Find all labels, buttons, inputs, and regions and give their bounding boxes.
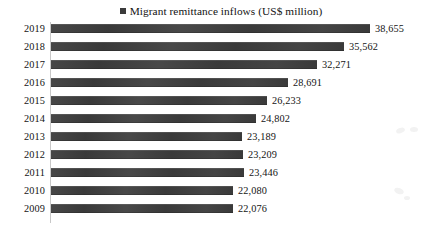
- bar-2018[interactable]: [51, 42, 344, 51]
- value-label-2016: 28,691: [293, 77, 322, 89]
- bar-row: 201732,271: [0, 58, 442, 76]
- bar-track: [51, 150, 243, 159]
- bar-row: 201938,655: [0, 22, 442, 40]
- square-marker-icon: [120, 8, 126, 14]
- bar-row: 201628,691: [0, 76, 442, 94]
- value-label-2015: 26,233: [272, 95, 301, 107]
- category-label-2017: 2017: [0, 59, 45, 71]
- category-label-2014: 2014: [0, 113, 45, 125]
- value-label-2014: 24,802: [261, 113, 290, 125]
- category-label-2015: 2015: [0, 95, 45, 107]
- category-label-2011: 2011: [0, 167, 45, 179]
- bar-track: [51, 78, 288, 87]
- bar-track: [51, 186, 233, 195]
- bar-row: 201223,209: [0, 148, 442, 166]
- value-label-2010: 22,080: [238, 185, 267, 197]
- legend-entry: Migrant remittance inflows (US$ million): [120, 5, 323, 17]
- category-label-2013: 2013: [0, 131, 45, 143]
- bar-2013[interactable]: [51, 132, 242, 141]
- bar-track: [51, 42, 344, 51]
- bar-row: 201526,233: [0, 94, 442, 112]
- chart-legend: Migrant remittance inflows (US$ million): [0, 3, 442, 19]
- bar-2011[interactable]: [51, 168, 244, 177]
- bar-2016[interactable]: [51, 78, 288, 87]
- bar-track: [51, 168, 244, 177]
- value-label-2013: 23,189: [247, 131, 276, 143]
- value-label-2018: 35,562: [349, 41, 378, 53]
- plot-area: 201938,655201835,562201732,271201628,691…: [0, 22, 442, 229]
- bar-track: [51, 24, 370, 33]
- bar-2014[interactable]: [51, 114, 256, 123]
- legend-label: Migrant remittance inflows (US$ million): [130, 5, 323, 17]
- bar-track: [51, 132, 242, 141]
- bar-row: 201835,562: [0, 40, 442, 58]
- bar-row: 201022,080: [0, 184, 442, 202]
- bar-row: 201424,802: [0, 112, 442, 130]
- bar-2015[interactable]: [51, 96, 267, 105]
- bar-2017[interactable]: [51, 60, 317, 69]
- bar-track: [51, 60, 317, 69]
- bar-2019[interactable]: [51, 24, 370, 33]
- bar-track: [51, 114, 256, 123]
- category-label-2012: 2012: [0, 149, 45, 161]
- category-label-2009: 2009: [0, 203, 45, 215]
- value-label-2009: 22,076: [238, 203, 267, 215]
- bar-row: 200922,076: [0, 202, 442, 220]
- value-label-2011: 23,446: [249, 167, 278, 179]
- bar-track: [51, 204, 233, 213]
- value-label-2017: 32,271: [322, 59, 351, 71]
- bar-row: 201123,446: [0, 166, 442, 184]
- bar-2012[interactable]: [51, 150, 243, 159]
- bar-track: [51, 96, 267, 105]
- bar-row: 201323,189: [0, 130, 442, 148]
- bar-2009[interactable]: [51, 204, 233, 213]
- value-label-2019: 38,655: [375, 23, 404, 35]
- category-label-2018: 2018: [0, 41, 45, 53]
- category-label-2019: 2019: [0, 23, 45, 35]
- category-label-2010: 2010: [0, 185, 45, 197]
- bar-2010[interactable]: [51, 186, 233, 195]
- category-label-2016: 2016: [0, 77, 45, 89]
- bar-chart-figure: Migrant remittance inflows (US$ million)…: [0, 0, 442, 233]
- value-label-2012: 23,209: [248, 149, 277, 161]
